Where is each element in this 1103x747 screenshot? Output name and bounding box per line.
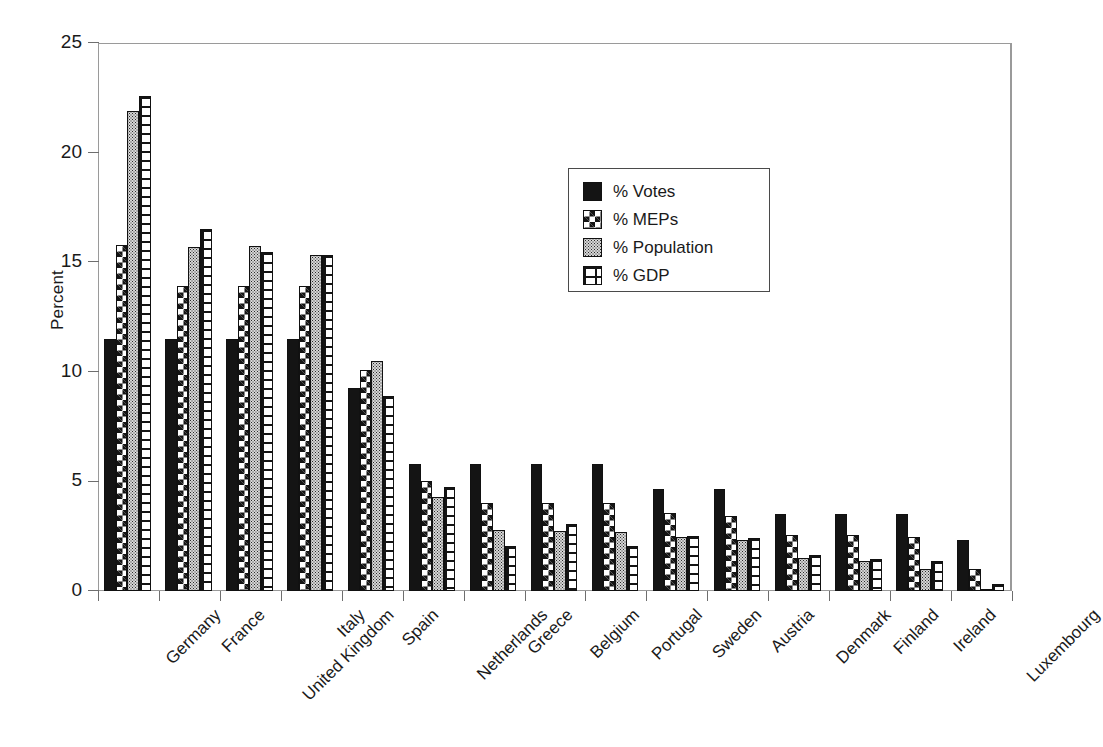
bar-group bbox=[281, 43, 342, 591]
bar-votes bbox=[714, 489, 726, 591]
bar-meps bbox=[542, 503, 554, 591]
legend-swatch-population-icon bbox=[583, 238, 602, 257]
bar-population bbox=[310, 255, 322, 591]
bar-population bbox=[676, 537, 688, 591]
bar-group bbox=[768, 43, 829, 591]
legend-item-gdp: % GDP bbox=[583, 262, 769, 289]
x-axis-tick bbox=[829, 591, 830, 601]
bar-gdp bbox=[505, 546, 517, 591]
bar-votes bbox=[348, 388, 360, 591]
bar-votes bbox=[592, 464, 604, 591]
bar-meps bbox=[786, 535, 798, 591]
bar-group bbox=[890, 43, 951, 591]
x-axis-tick bbox=[890, 591, 891, 601]
x-axis-tick-label: Ireland bbox=[950, 606, 999, 655]
bar-gdp bbox=[809, 555, 821, 591]
bar-gdp bbox=[870, 559, 882, 591]
bar-votes bbox=[531, 464, 543, 591]
bar-group bbox=[98, 43, 159, 591]
bar-votes bbox=[104, 339, 116, 591]
bar-meps bbox=[421, 481, 433, 591]
x-axis-tick bbox=[768, 591, 769, 601]
bar-gdp bbox=[444, 487, 456, 591]
y-axis-tick-label: 10 bbox=[30, 361, 82, 380]
x-axis-tick bbox=[1012, 591, 1013, 601]
x-axis-tick-label: Austria bbox=[767, 606, 816, 655]
bar-gdp bbox=[992, 584, 1004, 591]
bar-meps bbox=[847, 535, 859, 591]
bar-gdp bbox=[931, 561, 943, 591]
bar-population bbox=[432, 497, 444, 591]
legend-item-population: % Population bbox=[583, 234, 769, 261]
x-axis-tick bbox=[220, 591, 221, 601]
y-axis-tick-label: 0 bbox=[30, 580, 82, 599]
x-axis-tick-label: Denmark bbox=[833, 606, 894, 667]
bar-gdp bbox=[200, 229, 212, 591]
legend-item-meps: % MEPs bbox=[583, 206, 769, 233]
bar-votes bbox=[470, 464, 482, 591]
bar-group bbox=[951, 43, 1012, 591]
x-axis-tick-label: Germany bbox=[163, 606, 224, 667]
legend-label-meps: % MEPs bbox=[613, 211, 678, 228]
y-axis-tick-label: 20 bbox=[30, 142, 82, 161]
bar-votes bbox=[409, 464, 421, 591]
x-axis-tick bbox=[464, 591, 465, 601]
x-axis-tick bbox=[951, 591, 952, 601]
legend-swatch-gdp-icon bbox=[583, 266, 602, 285]
bar-population bbox=[737, 540, 749, 592]
bar-meps bbox=[664, 513, 676, 591]
bar-population bbox=[249, 246, 261, 591]
legend-label-population: % Population bbox=[613, 239, 713, 256]
bar-meps bbox=[177, 286, 189, 591]
legend-label-gdp: % GDP bbox=[613, 267, 670, 284]
x-axis-tick bbox=[585, 591, 586, 601]
bar-votes bbox=[835, 514, 847, 591]
bar-group bbox=[403, 43, 464, 591]
x-axis-tick-label: Luxembourg bbox=[1023, 606, 1102, 685]
bar-population bbox=[493, 530, 505, 591]
x-axis-tick-label: Finland bbox=[890, 606, 941, 657]
legend-swatch-meps-icon bbox=[583, 210, 602, 229]
y-axis-tick-label: 25 bbox=[30, 32, 82, 51]
x-axis-tick-label: France bbox=[219, 606, 268, 655]
bar-gdp bbox=[748, 538, 760, 591]
bar-meps bbox=[908, 537, 920, 591]
bar-gdp bbox=[687, 536, 699, 591]
bar-meps bbox=[116, 245, 128, 591]
bar-gdp bbox=[627, 546, 639, 591]
x-axis-tick-label: Spain bbox=[399, 606, 442, 649]
bar-group bbox=[342, 43, 403, 591]
bar-population bbox=[981, 589, 993, 591]
chart-legend: % Votes % MEPs % Population % GDP bbox=[568, 168, 770, 292]
bar-population bbox=[798, 558, 810, 591]
legend-swatch-votes-icon bbox=[583, 182, 602, 201]
bar-group bbox=[585, 43, 646, 591]
bar-votes bbox=[165, 339, 177, 591]
bar-votes bbox=[775, 514, 787, 591]
x-axis-tick-label: Sweden bbox=[709, 606, 764, 661]
x-axis-tick-label: Portugal bbox=[648, 606, 705, 663]
bar-votes bbox=[896, 514, 908, 591]
x-axis-tick bbox=[281, 591, 282, 601]
x-axis-tick bbox=[98, 591, 99, 601]
bar-votes bbox=[287, 339, 299, 591]
bar-group bbox=[159, 43, 220, 591]
legend-label-votes: % Votes bbox=[613, 183, 675, 200]
bar-population bbox=[188, 247, 200, 591]
bar-gdp bbox=[322, 255, 334, 591]
x-axis-tick bbox=[159, 591, 160, 601]
bar-meps bbox=[299, 286, 311, 591]
bar-group bbox=[220, 43, 281, 591]
x-axis-tick bbox=[403, 591, 404, 601]
bar-gdp bbox=[261, 252, 273, 591]
bar-population bbox=[554, 531, 566, 591]
bar-meps bbox=[238, 286, 250, 591]
bar-population bbox=[859, 561, 871, 591]
bar-population bbox=[127, 111, 139, 591]
bar-group bbox=[464, 43, 525, 591]
x-axis-tick bbox=[646, 591, 647, 601]
bar-votes bbox=[653, 489, 665, 591]
bar-meps bbox=[725, 516, 737, 591]
legend-item-votes: % Votes bbox=[583, 178, 769, 205]
